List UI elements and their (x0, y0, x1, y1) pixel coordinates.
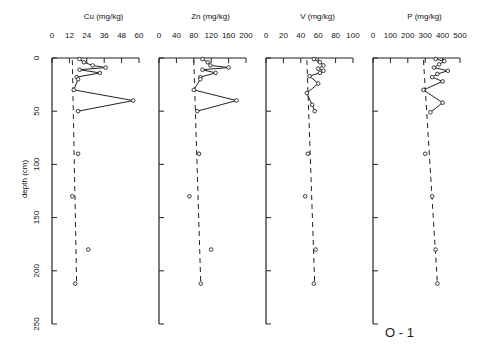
x-tick-label: 80 (331, 31, 340, 40)
data-point (434, 248, 438, 252)
y-tick-label: 50 (32, 106, 41, 115)
data-point (72, 88, 76, 92)
data-point (430, 75, 434, 79)
data-point (199, 282, 203, 286)
data-point (305, 91, 309, 95)
data-point (436, 282, 440, 286)
panel-title: Cu (mg/kg) (84, 12, 124, 21)
panel-title: P (mg/kg) (407, 12, 442, 21)
data-point (192, 88, 196, 92)
x-tick-label: 60 (135, 31, 144, 40)
data-point (78, 57, 82, 61)
data-point (73, 282, 77, 286)
data-point (214, 71, 218, 75)
data-point (78, 68, 82, 72)
figure-label: O - 1 (385, 325, 414, 340)
data-point (322, 64, 326, 68)
x-tick-label: 48 (117, 31, 126, 40)
data-point (195, 109, 199, 113)
data-point (430, 195, 434, 199)
y-tick-label: 100 (32, 157, 41, 171)
x-tick-label: 0 (50, 31, 55, 40)
depth-profile-chart: Cu (mg/kg)01224364860Zn (mg/kg)040801201… (0, 0, 485, 346)
data-point (199, 77, 203, 81)
data-point (422, 88, 426, 92)
data-point (197, 152, 201, 156)
data-point (437, 63, 441, 67)
data-point (312, 57, 316, 61)
data-line (307, 59, 324, 111)
x-tick-label: 120 (205, 31, 219, 40)
x-tick-label: 36 (100, 31, 109, 40)
data-line (74, 59, 133, 111)
data-point (318, 60, 322, 64)
data-point (86, 248, 90, 252)
data-point (82, 60, 86, 64)
data-point (235, 99, 239, 103)
data-point (441, 80, 445, 84)
panel-title: V (mg/kg) (300, 12, 335, 21)
x-tick-label: 0 (157, 31, 162, 40)
data-point (227, 66, 231, 70)
x-tick-label: 200 (239, 31, 253, 40)
data-point (91, 64, 95, 68)
x-tick-label: 400 (436, 31, 450, 40)
data-point (312, 282, 316, 286)
y-tick-label: 150 (32, 210, 41, 224)
y-tick-label: 200 (32, 264, 41, 278)
data-point (310, 103, 314, 107)
x-tick-label: 0 (371, 31, 376, 40)
x-tick-label: 200 (401, 31, 415, 40)
x-tick-label: 12 (65, 31, 74, 40)
data-point (434, 57, 438, 61)
y-tick-label: 250 (32, 317, 41, 331)
x-tick-label: 60 (314, 31, 323, 40)
data-point (131, 99, 135, 103)
data-point (318, 71, 322, 75)
data-point (316, 67, 320, 71)
trend-line (72, 60, 76, 283)
data-point (71, 195, 75, 199)
data-point (209, 64, 213, 68)
data-point (443, 59, 447, 63)
data-point (316, 82, 320, 86)
data-point (76, 152, 80, 156)
x-tick-label: 500 (453, 31, 467, 40)
x-tick-label: 100 (384, 31, 398, 40)
x-tick-label: 20 (279, 31, 288, 40)
data-point (303, 195, 307, 199)
x-tick-label: 80 (189, 31, 198, 40)
data-point (308, 74, 312, 78)
data-point (429, 110, 433, 114)
data-point (201, 68, 205, 72)
x-tick-label: 100 (346, 31, 360, 40)
data-point (322, 69, 326, 73)
data-point (436, 72, 440, 76)
data-point (206, 60, 210, 64)
data-point (98, 71, 102, 75)
data-point (76, 109, 80, 113)
data-point (441, 101, 445, 105)
data-point (306, 152, 310, 156)
x-tick-label: 40 (296, 31, 305, 40)
data-point (423, 152, 427, 156)
data-point (446, 69, 450, 73)
x-tick-label: 0 (264, 31, 269, 40)
panel-title: Zn (mg/kg) (191, 12, 230, 21)
data-point (104, 66, 108, 70)
data-point (432, 66, 436, 70)
x-tick-label: 40 (172, 31, 181, 40)
data-point (313, 109, 317, 113)
x-tick-label: 300 (419, 31, 433, 40)
y-tick-label: 0 (32, 55, 41, 60)
x-tick-label: 160 (222, 31, 236, 40)
data-point (76, 77, 80, 81)
y-axis-label: depth (cm) (20, 160, 29, 199)
data-point (201, 57, 205, 61)
data-point (314, 248, 318, 252)
x-tick-label: 24 (82, 31, 91, 40)
data-point (209, 248, 213, 252)
trend-line (194, 60, 201, 283)
data-point (188, 195, 192, 199)
